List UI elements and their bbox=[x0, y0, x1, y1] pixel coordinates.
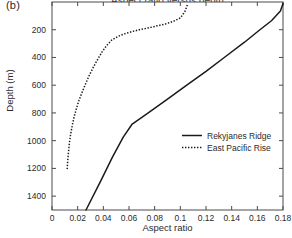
chart-legend: Rekyjanes RidgeEast Pacific Rise bbox=[182, 130, 276, 154]
plot-canvas bbox=[0, 0, 292, 238]
figure-panel: (b) Aspect ratio versus depth Depth (m) … bbox=[0, 0, 292, 238]
y-tick-label: 400 bbox=[8, 52, 46, 62]
y-tick-label: 1000 bbox=[8, 136, 46, 146]
y-tick-label: 800 bbox=[8, 108, 46, 118]
x-tick-label: 0.14 bbox=[223, 213, 240, 223]
x-tick-label: 0.04 bbox=[95, 213, 112, 223]
y-tick-label: 200 bbox=[8, 25, 46, 35]
legend-label: East Pacific Rise bbox=[207, 143, 271, 153]
x-tick-label: 0.08 bbox=[146, 213, 163, 223]
x-tick-label: 0.18 bbox=[275, 213, 292, 223]
legend-label: Rekyjanes Ridge bbox=[207, 131, 271, 141]
x-tick-label: 0.02 bbox=[69, 213, 86, 223]
y-tick-label: 1200 bbox=[8, 163, 46, 173]
axes-frame bbox=[52, 2, 283, 210]
legend-line-icon bbox=[182, 131, 202, 140]
x-tick-label: 0 bbox=[50, 213, 55, 223]
x-tick-label: 0.06 bbox=[121, 213, 138, 223]
x-axis-label: Aspect ratio bbox=[52, 222, 283, 233]
legend-item[interactable]: Rekyjanes Ridge bbox=[182, 130, 276, 141]
x-tick-label: 0.1 bbox=[174, 213, 186, 223]
x-tick-label: 0.12 bbox=[198, 213, 215, 223]
legend-item[interactable]: East Pacific Rise bbox=[182, 142, 276, 153]
legend-line-icon bbox=[182, 143, 202, 152]
x-tick-label: 0.16 bbox=[249, 213, 266, 223]
y-tick-label: 600 bbox=[8, 80, 46, 90]
y-tick-label: 1400 bbox=[8, 191, 46, 201]
